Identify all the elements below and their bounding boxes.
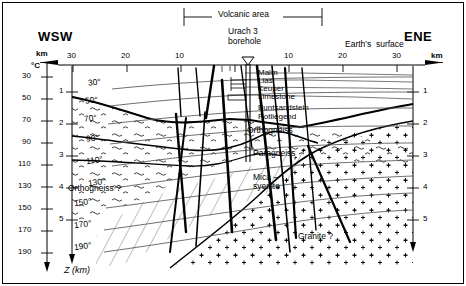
orthogneiss-query-label: Orthogneiss ?	[68, 184, 121, 193]
tick-depth-right-5: 5	[423, 215, 427, 223]
isotherm-label-30: 30°	[88, 77, 102, 87]
tick-distance-left-30: 30	[67, 52, 76, 60]
rock-label-paragneiss: Paragneiss	[253, 149, 296, 158]
axis-unit-celsius: °C	[31, 62, 40, 70]
tick-depth-left-5: 5	[59, 215, 63, 223]
strat-label-limestone: Limestone	[258, 93, 295, 101]
rock-label-syenite: syenite	[253, 182, 280, 191]
tick-distance-right-10: 10	[284, 52, 293, 60]
tick-depth-right-3: 3	[423, 151, 427, 159]
volcanic-area-label: Volcanic area	[218, 10, 269, 19]
direction-label-ene: ENE	[404, 30, 432, 44]
isotherm-label-70: 70°	[84, 113, 98, 123]
axis-unit-km-right: km	[431, 52, 443, 60]
isotherm-label-50: 50°	[85, 95, 99, 105]
tick-distance-right-20: 20	[338, 52, 347, 60]
tick-temp-170: 170	[18, 226, 31, 234]
tick-temp-50: 50	[22, 94, 31, 102]
tick-temp-110: 110	[18, 160, 31, 168]
tick-distance-left-10: 10	[175, 52, 184, 60]
tick-depth-left-2: 2	[59, 119, 63, 127]
tick-temp-90: 90	[22, 138, 31, 146]
strat-label-rotliegend: Rotliegend	[258, 113, 296, 121]
earth-surface-label: Earth's surface	[345, 40, 404, 49]
tick-temp-30: 30	[22, 72, 31, 80]
tick-temp-150: 150	[18, 204, 31, 212]
tick-distance-left-20: 20	[121, 52, 130, 60]
tick-temp-190: 190	[18, 248, 31, 256]
tick-depth-left-1: 1	[59, 87, 63, 95]
rock-label-granite: Granite ?	[298, 232, 333, 241]
tick-depth-right-1: 1	[423, 87, 427, 95]
borehole-name-line1: Urach 3	[228, 27, 258, 36]
temperature-axis	[41, 62, 53, 272]
axis-unit-km-left: km	[36, 50, 48, 58]
geological-cross-section-figure: Volcanic area Urach 3 borehole Earth's s…	[0, 0, 466, 286]
tick-depth-left-3: 3	[59, 151, 63, 159]
tick-temp-130: 130	[18, 182, 31, 190]
tick-depth-left-4: 4	[59, 183, 63, 191]
tick-temp-70: 70	[22, 116, 31, 124]
isotherm-label-90: 90°	[86, 133, 100, 143]
tick-depth-right-2: 2	[423, 119, 427, 127]
tick-depth-right-4: 4	[423, 183, 427, 191]
surface-texture	[222, 66, 230, 72]
depth-axis-title: Z (km)	[64, 266, 90, 275]
direction-label-wsw: WSW	[38, 30, 73, 44]
rock-label-orthogneiss: Orthogneiss	[247, 126, 293, 135]
borehole-name-line2: borehole	[228, 37, 261, 46]
tick-distance-right-30: 30	[392, 52, 401, 60]
